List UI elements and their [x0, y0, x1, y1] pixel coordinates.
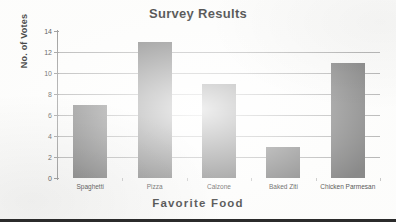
y-tick-mark — [54, 157, 59, 158]
y-tick-label: 4 — [48, 133, 52, 140]
x-category-label: Chicken Parmesan — [310, 183, 386, 191]
bar — [73, 105, 107, 179]
y-axis-title: No. of Votes — [19, 0, 29, 86]
y-tick-mark — [54, 136, 59, 137]
y-tick-label: 2 — [48, 154, 52, 161]
x-tick-mark — [187, 178, 188, 181]
x-tick-mark — [251, 178, 252, 181]
chart-title: Survey Results — [0, 6, 396, 21]
y-tick-label: 12 — [44, 49, 52, 56]
bar — [266, 147, 300, 179]
y-tick-label: 0 — [48, 175, 52, 182]
y-tick-label: 8 — [48, 91, 52, 98]
bar — [138, 42, 172, 179]
y-tick-label: 10 — [44, 70, 52, 77]
y-tick-mark — [54, 94, 59, 95]
y-tick-mark — [54, 178, 59, 179]
y-tick-mark — [54, 115, 59, 116]
gridline — [58, 52, 380, 53]
y-tick-mark — [54, 31, 59, 32]
bar — [331, 63, 365, 179]
y-tick-mark — [54, 73, 59, 74]
y-tick-mark — [54, 52, 59, 53]
plot-area: 02468101214 SpaghettiPizzaCalzoneBaked Z… — [58, 31, 380, 178]
y-tick-label: 14 — [44, 28, 52, 35]
x-tick-mark — [316, 178, 317, 181]
x-tick-mark — [122, 178, 123, 181]
x-axis-title: Favorite Food — [0, 197, 396, 209]
bar — [202, 84, 236, 179]
chart-screenshot: Survey Results No. of Votes 02468101214 … — [0, 0, 396, 222]
x-tick-mark — [380, 178, 381, 181]
y-tick-label: 6 — [48, 112, 52, 119]
